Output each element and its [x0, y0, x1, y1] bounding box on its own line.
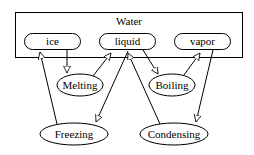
node-boiling-label: Boiling	[155, 79, 189, 91]
edge-liquid-boiling	[143, 50, 158, 74]
node-freezing[interactable]: Freezing	[40, 123, 108, 145]
edge-vapor-condensing	[196, 50, 213, 122]
node-liquid-label: liquid	[115, 35, 141, 47]
edge-melting-liquid	[93, 53, 111, 76]
node-boiling[interactable]: Boiling	[149, 74, 195, 96]
node-melting[interactable]: Melting	[57, 74, 103, 96]
node-condensing-label: Condensing	[148, 128, 201, 140]
node-liquid[interactable]: liquid	[100, 34, 156, 50]
edge-boiling-vapor	[184, 53, 200, 75]
water-state-diagram: Water ice liquid vapor Melting Boiling F…	[0, 0, 254, 155]
node-condensing[interactable]: Condensing	[140, 123, 208, 145]
node-melting-label: Melting	[63, 79, 98, 91]
node-freezing-label: Freezing	[55, 128, 94, 140]
node-ice[interactable]: ice	[25, 34, 81, 50]
node-ice-label: ice	[46, 35, 59, 47]
node-vapor[interactable]: vapor	[175, 34, 231, 50]
cluster-label: Water	[116, 15, 142, 27]
edge-freezing-ice	[40, 52, 57, 124]
node-vapor-label: vapor	[190, 35, 215, 47]
